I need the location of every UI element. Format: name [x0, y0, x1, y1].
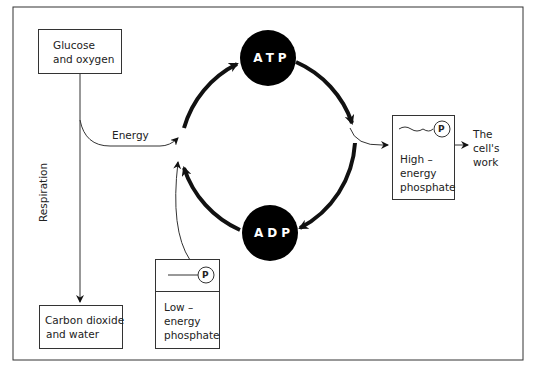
high-phosphate-bond-icon	[393, 116, 456, 146]
glucose-box: Glucose and oxygen	[38, 29, 122, 74]
cells-work-label-1: The	[473, 127, 493, 141]
high-p-symbol: P	[438, 122, 445, 136]
cells-work-label-2: cell's	[473, 141, 499, 155]
carbon-box: Carbon dioxide and water	[39, 305, 123, 349]
low-p-symbol: P	[202, 268, 209, 282]
to-high-phosphate-arrow	[350, 128, 388, 145]
glucose-label: Glucose	[53, 38, 95, 52]
glucose-label-2: and oxygen	[53, 52, 114, 66]
atp-label: ATP	[242, 51, 302, 65]
arc-from-adp	[184, 168, 240, 230]
respiration-label: Respiration	[36, 142, 50, 222]
high-phosphate-label-1: High –	[400, 152, 433, 166]
low-phosphate-label-3: phosphate	[164, 328, 220, 342]
high-phosphate-label-3: phosphate	[400, 180, 456, 194]
carbon-label-2: and water	[46, 327, 99, 341]
low-phosphate-box: P Low – energy phosphate	[155, 259, 220, 349]
energy-label: Energy	[112, 128, 149, 142]
carbon-label: Carbon dioxide	[45, 313, 124, 327]
arc-from-atp	[296, 62, 352, 123]
arc-to-atp	[184, 64, 237, 128]
low-phosphate-label-1: Low –	[164, 300, 193, 314]
adp-label: ADP	[244, 226, 304, 240]
low-phosphate-divider	[156, 291, 219, 292]
low-phosphate-bond-icon	[156, 260, 221, 292]
low-phosphate-label-2: energy	[164, 314, 201, 328]
arc-to-adp	[300, 143, 355, 228]
cells-work-label-3: work	[473, 155, 498, 169]
high-phosphate-label-2: energy	[400, 166, 437, 180]
high-phosphate-box: P High – energy phosphate	[392, 115, 455, 200]
